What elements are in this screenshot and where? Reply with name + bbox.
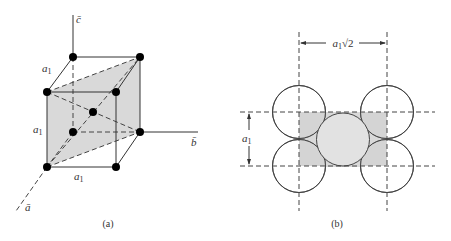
atom-corner (112, 163, 120, 171)
atom-corner (136, 53, 144, 61)
arrowhead-right-icon (380, 41, 386, 45)
edge-label-top: a1 (42, 62, 52, 76)
panel-b-caption: (b) (331, 218, 343, 230)
arrowhead-down-icon (247, 159, 251, 165)
panel-a-bcc-cell: c̄ b̄ ā a1 a1 a1 (a) (16, 13, 198, 230)
panel-a-caption: (a) (102, 218, 113, 230)
vertical-dimension-label: a1 (242, 132, 252, 146)
figure-canvas: c̄ b̄ ā a1 a1 a1 (a) (0, 0, 451, 241)
center-atom (317, 113, 370, 166)
atom-corner (69, 128, 77, 136)
a-axis (16, 167, 47, 211)
atom-corner (69, 53, 77, 61)
atom-corner (43, 88, 51, 96)
a-axis-label: ā (25, 201, 31, 213)
panel-b-close-packed-plane: a1√2 a1 (b) (240, 32, 435, 230)
horizontal-dimension-label: a1√2 (332, 37, 353, 51)
edge-label-bottom: a1 (74, 170, 84, 184)
c-axis-label: c̄ (76, 13, 81, 25)
atom-corner (112, 88, 120, 96)
atom-corner (43, 163, 51, 171)
atom-body-center (89, 108, 97, 116)
arrowhead-up-icon (247, 113, 251, 119)
edge-label-left: a1 (33, 123, 43, 137)
b-axis-label: b̄ (191, 136, 197, 148)
atom-corner (136, 128, 144, 136)
arrowhead-left-icon (300, 41, 306, 45)
